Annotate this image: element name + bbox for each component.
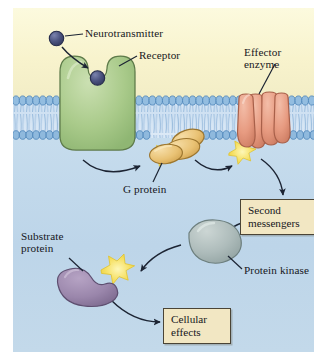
- neurotransmitter-bound[interactable]: [90, 71, 104, 85]
- second-messengers-box[interactable]: Second messengers: [240, 199, 314, 235]
- label-substrate-protein: Substrate protein: [21, 230, 64, 254]
- second-messengers-line2: messengers: [248, 217, 308, 230]
- label-protein-kinase: Protein kinase: [244, 264, 309, 276]
- cellular-effects-line1: Cellular: [171, 313, 223, 326]
- label-substrate-protein-line1: Substrate: [21, 230, 64, 242]
- second-messengers-line1: Second: [248, 204, 308, 217]
- label-neurotransmitter: Neurotransmitter: [85, 27, 163, 39]
- cellular-effects-box[interactable]: Cellular effects: [163, 308, 231, 344]
- label-effector-enzyme-line2: enzyme: [244, 58, 281, 70]
- label-receptor: Receptor: [139, 49, 180, 61]
- label-g-protein: G protein: [123, 183, 166, 195]
- neurotransmitter-free[interactable]: [49, 31, 63, 45]
- figure-container: Neurotransmitter Receptor Effector enzym…: [0, 0, 327, 362]
- protein-kinase-molecule[interactable]: [189, 220, 241, 263]
- diagram-canvas: Neurotransmitter Receptor Effector enzym…: [13, 8, 314, 352]
- label-substrate-protein-line2: protein: [21, 242, 64, 254]
- label-effector-enzyme-line1: Effector: [244, 46, 281, 58]
- cellular-effects-line2: effects: [171, 326, 223, 339]
- label-effector-enzyme: Effector enzyme: [244, 46, 281, 70]
